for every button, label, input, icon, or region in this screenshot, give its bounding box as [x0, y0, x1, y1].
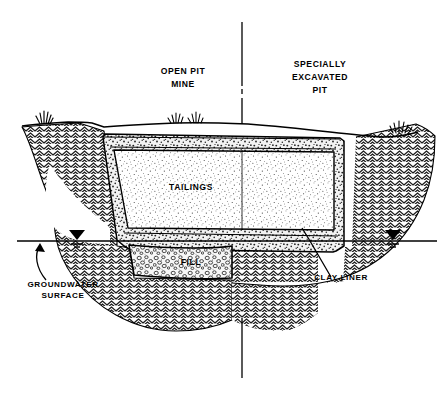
groundwater-leader-arrow [35, 243, 46, 280]
label-specially-excavated-pit-line2: EXCAVATED [292, 72, 348, 82]
label-tailings: TAILINGS [169, 182, 213, 192]
label-specially-excavated-pit-line1: SPECIALLY [294, 59, 346, 69]
label-groundwater-surface-line1: GROUNDWATER [27, 280, 98, 289]
label-open-pit-mine-line2: MINE [171, 79, 195, 89]
tailings-region [114, 150, 334, 230]
grass-tuft-icon-center-b [188, 112, 203, 123]
grass-tuft-icon-center-a [168, 113, 183, 123]
label-fill: FILL [181, 257, 201, 267]
cross-section-svg: OPEN PIT MINE SPECIALLY EXCAVATED PIT TA… [0, 0, 440, 393]
grass-tuft-icon-left [36, 111, 53, 124]
label-specially-excavated-pit-line3: PIT [312, 85, 327, 95]
cross-section-diagram: OPEN PIT MINE SPECIALLY EXCAVATED PIT TA… [0, 0, 440, 393]
label-groundwater-surface-line2: SURFACE [42, 291, 85, 300]
label-open-pit-mine-line1: OPEN PIT [161, 66, 206, 76]
label-clay-liner: CLAY LINER [314, 273, 368, 282]
